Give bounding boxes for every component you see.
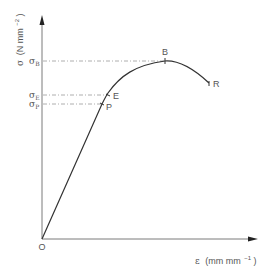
x-axis-units: (mm mm — [205, 256, 241, 266]
origin-label: O — [39, 242, 46, 252]
guide-lines — [43, 61, 165, 104]
x-axis-close: ) — [254, 256, 257, 266]
y-axis-symbol: σ — [15, 60, 25, 66]
stress-strain-curve — [42, 61, 209, 239]
point-b-label: B — [162, 47, 168, 57]
y-axis-arrow-icon — [40, 15, 45, 25]
sigma-e-subscript: E — [35, 94, 39, 101]
axes — [40, 15, 259, 242]
y-axis-close: ) — [15, 13, 25, 16]
point-r-label: R — [213, 79, 220, 89]
y-axis-exponent: −2 — [14, 18, 20, 26]
sigma-p-subscript: P — [35, 103, 39, 110]
y-axis-label: σ (N mm −2 ) — [11, 13, 25, 66]
sigma-b-label: σB — [29, 56, 40, 67]
x-axis-arrow-icon — [248, 237, 258, 242]
point-p-label: P — [106, 102, 112, 112]
sigma-b-subscript: B — [35, 60, 40, 67]
stress-strain-diagram: σ (N mm −2 ) ε (mm mm −1 ) O σB σE σP P … — [0, 0, 272, 275]
x-axis-label: ε (mm mm −1 ) — [195, 252, 257, 266]
x-axis-symbol: ε — [195, 256, 200, 266]
x-axis-exponent: −1 — [244, 255, 252, 261]
y-axis-units: (N mm — [15, 28, 25, 55]
point-e-label: E — [113, 91, 119, 101]
